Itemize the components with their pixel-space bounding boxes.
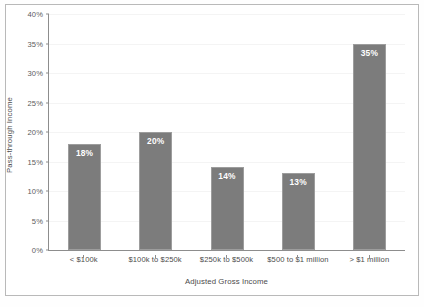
y-axis-title: Pass-through Income: [5, 97, 14, 173]
y-tick-label: 0%: [32, 246, 43, 255]
y-tick-label: 35%: [28, 39, 44, 48]
bar[interactable]: 14%: [211, 167, 244, 250]
y-tick-label: 20%: [28, 128, 44, 137]
bar-value-label: 35%: [354, 48, 385, 58]
x-tick-mark: [226, 255, 227, 258]
plot-area: 40%35%30%25%20%15%10%5%0% 18%20%14%13%35…: [48, 14, 405, 251]
x-tick-label: > $1 million: [334, 255, 405, 264]
chart-figure: Pass-through Income 40%35%30%25%20%15%10…: [0, 0, 424, 307]
bar-group: 14%: [191, 14, 262, 250]
x-tick-mark: [297, 255, 298, 258]
bar-value-label: 13%: [283, 177, 314, 187]
y-tick-label: 40%: [28, 10, 44, 19]
bar[interactable]: 35%: [353, 44, 386, 251]
bar-value-label: 14%: [212, 171, 243, 181]
y-tick-label: 5%: [32, 216, 43, 225]
bar-group: 18%: [49, 14, 120, 250]
bar[interactable]: 18%: [68, 144, 101, 250]
bar-group: 13%: [263, 14, 334, 250]
bar-group: 35%: [334, 14, 405, 250]
bars-layer: 18%20%14%13%35%: [49, 14, 405, 250]
x-axis-title: Adjusted Gross Income: [48, 277, 405, 286]
x-tick-mark: [155, 255, 156, 258]
page-edge-artifact: [5, 301, 419, 307]
bar-group: 20%: [120, 14, 191, 250]
x-tick-mark: [83, 255, 84, 258]
x-tick-label: < $100k: [48, 255, 119, 264]
y-tick-label: 25%: [28, 98, 44, 107]
bar-value-label: 20%: [140, 136, 171, 146]
bar[interactable]: 20%: [139, 132, 172, 250]
bar[interactable]: 13%: [282, 173, 315, 250]
x-axis-ticks: < $100k$100k to $250k$250k to $500k$500 …: [48, 255, 405, 264]
x-tick-label: $500 to $1 million: [262, 255, 333, 264]
x-tick-label: $100k to $250k: [119, 255, 190, 264]
y-tick-label: 10%: [28, 187, 44, 196]
y-tick-label: 30%: [28, 69, 44, 78]
x-tick-mark: [369, 255, 370, 258]
bar-value-label: 18%: [69, 148, 100, 158]
x-tick-label: $250k to $500k: [191, 255, 262, 264]
y-tick-label: 15%: [28, 157, 44, 166]
